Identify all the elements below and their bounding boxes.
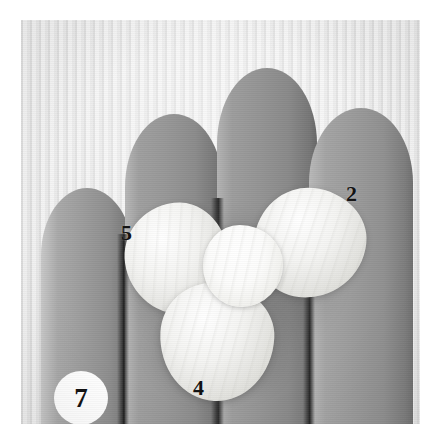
photograph: 2 5 4 7 — [21, 20, 420, 424]
figure-plate: 2 5 4 7 — [0, 0, 443, 441]
callout-label-5: 5 — [121, 222, 132, 244]
callout-label-4: 4 — [193, 377, 204, 399]
figure-number-text: 7 — [74, 385, 88, 412]
callout-label-2: 2 — [346, 183, 357, 205]
figure-number-badge: 7 — [54, 371, 108, 424]
